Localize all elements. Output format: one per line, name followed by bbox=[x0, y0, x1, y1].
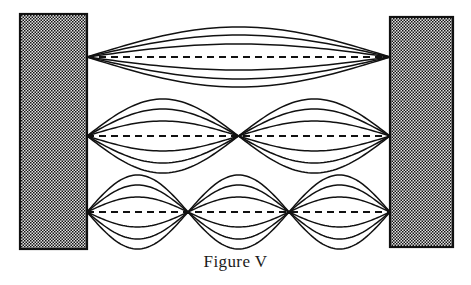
wave-envelope-curve bbox=[87, 35, 390, 57]
wave-envelope-curve bbox=[87, 57, 390, 87]
wave-envelope-curve bbox=[87, 121, 390, 136]
wave-envelope-curve bbox=[87, 136, 390, 151]
wave-envelope-curve bbox=[87, 57, 390, 70]
wave-envelope-curve bbox=[87, 212, 390, 227]
wave-envelope-curve bbox=[87, 197, 390, 212]
wave-envelope-curve bbox=[87, 185, 390, 212]
wave-second-harmonic bbox=[87, 99, 390, 173]
wave-envelope-curve bbox=[87, 175, 390, 212]
right-wall bbox=[390, 17, 453, 247]
left-wall bbox=[20, 14, 87, 249]
wave-envelope-curve bbox=[87, 136, 390, 163]
wave-envelope-curve bbox=[87, 212, 390, 249]
standing-wave-diagram bbox=[0, 0, 471, 285]
wave-fundamental bbox=[87, 27, 390, 87]
wave-envelope-curve bbox=[87, 27, 390, 57]
figure-caption: Figure V bbox=[0, 252, 471, 272]
wave-envelope-curve bbox=[87, 44, 390, 57]
wave-envelope-curve bbox=[87, 109, 390, 136]
wave-envelope-curve bbox=[87, 99, 390, 136]
wave-envelope-curve bbox=[87, 136, 390, 173]
wave-group bbox=[87, 27, 390, 249]
figure-container: Figure V bbox=[0, 0, 471, 285]
wave-envelope-curve bbox=[87, 57, 390, 79]
wave-envelope-curve bbox=[87, 212, 390, 239]
wave-third-harmonic bbox=[87, 175, 390, 249]
